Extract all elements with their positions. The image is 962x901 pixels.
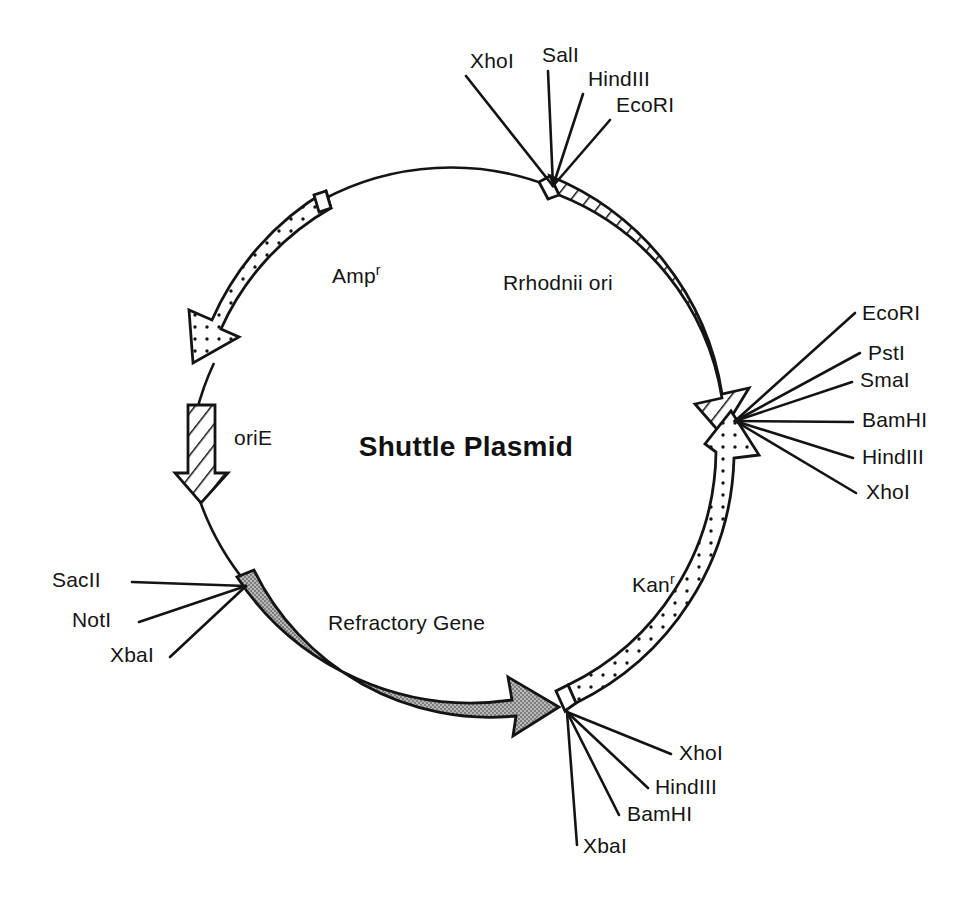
leader-left-xbai — [170, 586, 246, 657]
site-label-bottom-xhoi: XhoI — [679, 741, 723, 764]
leader-top-ecori — [553, 120, 610, 186]
site-label-right-bamhi: BamHI — [862, 408, 927, 431]
leader-top-sali — [548, 71, 553, 186]
backbone-arc-orie-to-refractory — [197, 492, 247, 584]
feature-label-amp-r: Ampr — [332, 262, 381, 287]
restriction-cluster-bottom: XhoI HindIII BamHI XbaI — [567, 712, 723, 857]
leader-bottom-xbai — [567, 712, 577, 845]
site-label-right-ecori: EcoRI — [862, 301, 920, 324]
site-label-bottom-hindiii: HindIII — [655, 775, 717, 798]
leader-left-sacii — [132, 582, 246, 586]
feature-label-amp-r-text: Amp — [332, 264, 376, 287]
site-label-right-hindiii: HindIII — [862, 445, 924, 468]
site-label-bottom-bamhi: BamHI — [627, 802, 692, 825]
feature-label-amp-r-superscript: r — [376, 262, 381, 278]
leader-right-bamhi — [735, 421, 853, 422]
leader-top-hindiii — [553, 94, 583, 186]
kan-r-arc-arrow — [568, 411, 759, 703]
site-label-bottom-xbai: XbaI — [583, 834, 627, 857]
feature-label-orie: oriE — [234, 426, 272, 449]
feature-refractory-gene — [237, 570, 559, 736]
site-label-right-xhoi: XhoI — [866, 480, 910, 503]
plasmid-backbone — [196, 168, 552, 584]
restriction-cluster-right: EcoRI PstI SmaI BamHI HindIII XhoI — [735, 301, 927, 503]
leader-bottom-xhoi — [567, 712, 671, 754]
rrhodnii-ori-arc-arrow — [550, 176, 749, 434]
site-label-top-xhoi: XhoI — [470, 49, 514, 72]
refractory-gene-arc-arrow — [237, 570, 559, 736]
restriction-cluster-left: SacII NotI XbaI — [52, 568, 246, 666]
feature-label-refractory-gene: Refractory Gene — [328, 611, 485, 634]
site-label-top-sali: SalI — [542, 43, 579, 66]
site-label-left-xbai: XbaI — [110, 643, 154, 666]
leader-left-noti — [139, 586, 246, 622]
site-label-left-noti: NotI — [72, 608, 111, 631]
site-label-right-psti: PstI — [868, 341, 905, 364]
plasmid-figure: Shuttle Plasmid Rrhodnii ori Ampr Kanr R… — [0, 0, 962, 901]
plasmid-map-canvas: Shuttle Plasmid Rrhodnii ori Ampr Kanr R… — [0, 0, 962, 901]
feature-amp-r — [189, 191, 331, 363]
feature-label-kan-r-text: Kan — [632, 573, 670, 596]
feature-label-rrhodnii-ori: Rrhodnii ori — [503, 271, 613, 294]
site-label-left-sacii: SacII — [52, 568, 101, 591]
feature-label-kan-r-superscript: r — [670, 571, 675, 587]
restriction-cluster-top: XhoI SalI HindIII EcoRI — [466, 43, 674, 186]
amp-r-arc-arrow — [189, 191, 331, 363]
backbone-arc-top-left — [322, 168, 552, 200]
feature-kan-r — [556, 411, 759, 711]
site-label-top-hindiii: HindIII — [588, 67, 650, 90]
plasmid-title: Shuttle Plasmid — [359, 431, 574, 462]
site-label-right-smai: SmaI — [860, 368, 910, 391]
feature-rrhodnii-ori — [539, 176, 749, 434]
feature-labels: Shuttle Plasmid Rrhodnii ori Ampr Kanr R… — [234, 262, 675, 634]
feature-label-kan-r: Kanr — [632, 571, 675, 596]
leader-right-ecori — [735, 313, 855, 421]
orie-arrow — [175, 405, 228, 503]
site-label-top-ecori: EcoRI — [616, 93, 674, 116]
feature-orie — [175, 405, 228, 503]
leader-bottom-hindiii — [567, 712, 648, 788]
